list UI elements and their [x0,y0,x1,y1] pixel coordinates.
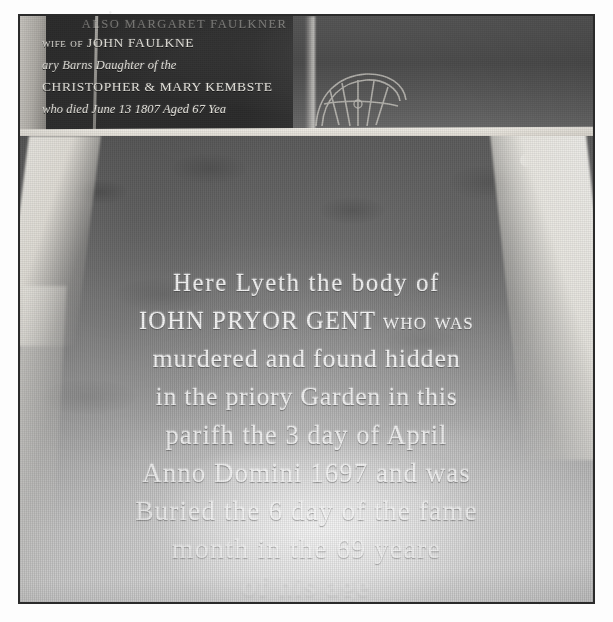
scanned-page: ALSO MARGARET FAULKNER wife of JOHN FAUL… [0,0,613,622]
upper-inscription-line-2: wife of JOHN FAULKNE [42,32,327,54]
upper-inscription-line-1: ALSO MARGARET FAULKNER [42,17,327,32]
upper-inscription-line-4: CHRISTOPHER & MARY KEMBSTE [42,76,327,98]
main-slab-light-glare [158,434,479,602]
upper-slab-inscription: ALSO MARGARET FAULKNER wife of JOHN FAUL… [42,16,327,120]
upper-inscription-line-5: who died June 13 1807 Aged 67 Yea [42,98,327,120]
upper-memorial-slab: ALSO MARGARET FAULKNER wife of JOHN FAUL… [20,16,593,134]
main-ledger-slab: Here Lyeth the body of IOHN PRYOR GENT w… [20,136,593,602]
upper-inscription-line-3: ary Barns Daughter of the [42,54,327,76]
photograph: ALSO MARGARET FAULKNER wife of JOHN FAUL… [18,14,595,604]
